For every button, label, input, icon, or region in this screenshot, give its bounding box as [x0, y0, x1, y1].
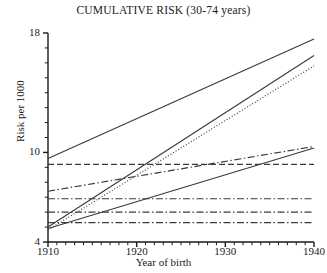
- series-line-series-5: [48, 148, 314, 229]
- x-tick-label: 1930: [205, 246, 245, 257]
- series-line-series-2: [48, 55, 314, 227]
- cumulative-risk-chart: CUMULATIVE RISK (30-74 years) Risk per 1…: [0, 0, 327, 273]
- y-tick-label: 10: [14, 146, 40, 157]
- series-line-series-1: [48, 39, 314, 158]
- series-line-series-3: [48, 66, 314, 230]
- series-line-series-4: [48, 146, 314, 191]
- plot-area: [0, 0, 327, 273]
- x-tick-label: 1920: [117, 246, 157, 257]
- y-tick-label: 18: [14, 27, 40, 38]
- x-tick-label: 1940: [294, 246, 327, 257]
- x-tick-label: 1910: [28, 246, 68, 257]
